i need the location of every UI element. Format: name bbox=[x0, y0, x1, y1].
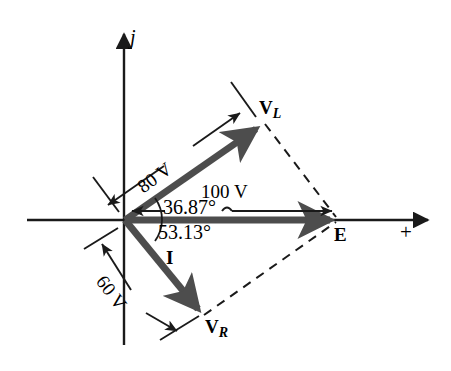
dim-line-60v-down bbox=[146, 313, 177, 331]
dashed-line-vr-to-e bbox=[204, 222, 336, 315]
phasor-label-vr: VR bbox=[205, 317, 228, 340]
angle-label-36-87: 36.87° bbox=[163, 197, 216, 217]
dim-ext-tick-60v-origin bbox=[84, 228, 118, 249]
real-axis-label: + bbox=[400, 222, 412, 243]
phasor-label-vr-main: V bbox=[205, 316, 219, 337]
dim-ext-tick-80v-origin bbox=[93, 177, 119, 212]
angle-label-53-13: 53.13° bbox=[158, 222, 211, 242]
dimension-100v bbox=[132, 208, 332, 212]
dim-break-hump-100v bbox=[222, 208, 232, 212]
phasor-label-e: E bbox=[334, 225, 347, 244]
dim-ext-tick-60v-tip bbox=[160, 316, 199, 340]
dashed-line-vl-to-e bbox=[265, 124, 336, 217]
imaginary-axis-label: j bbox=[130, 27, 136, 47]
dim-ext-tick-80v-tip bbox=[231, 82, 256, 117]
phasor-label-vr-subscript: R bbox=[219, 325, 228, 340]
phasor-label-e-main: E bbox=[334, 224, 347, 245]
phasor-label-i: I bbox=[166, 248, 173, 267]
phasor-label-vl-subscript: L bbox=[273, 106, 282, 121]
phasor-label-vl: VL bbox=[259, 98, 281, 121]
phasor-diagram-figure: j + VL E VR I 80 V 100 V 60 V 36.87° 53.… bbox=[0, 0, 451, 371]
phasor-group bbox=[125, 129, 330, 309]
phasor-label-vl-main: V bbox=[259, 97, 273, 118]
